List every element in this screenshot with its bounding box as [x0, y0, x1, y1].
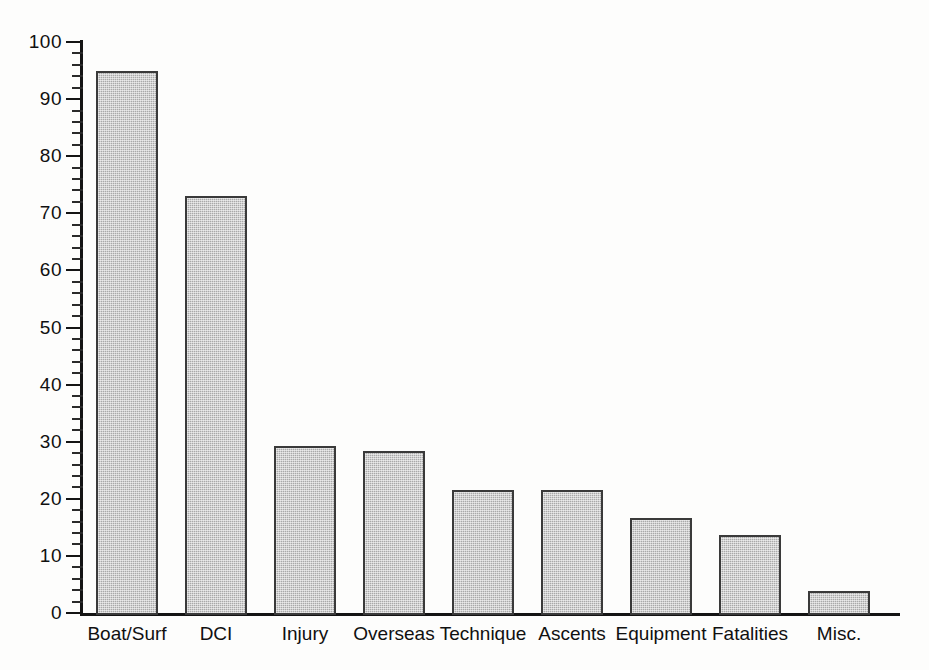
y-tick-label: 70 — [4, 203, 62, 222]
y-tick-label: 60 — [4, 260, 62, 279]
bar — [808, 591, 870, 615]
bar — [541, 490, 603, 615]
y-tick-minor — [72, 258, 83, 260]
y-tick-minor — [72, 566, 83, 568]
y-tick-minor — [72, 601, 83, 603]
y-tick-minor — [72, 349, 83, 351]
y-tick-minor — [72, 189, 83, 191]
bar — [274, 446, 336, 615]
y-axis-ticks: 0102030405060708090100 — [0, 0, 62, 670]
y-tick-minor — [72, 110, 83, 112]
y-tick-label: 100 — [4, 32, 62, 51]
y-tick-minor — [72, 418, 83, 420]
bar — [363, 451, 425, 615]
y-tick-minor — [72, 87, 83, 89]
y-tick-label: 20 — [4, 489, 62, 508]
y-tick-minor — [72, 475, 83, 477]
y-tick-minor — [72, 292, 83, 294]
y-tick-minor — [72, 201, 83, 203]
y-tick-major — [66, 612, 83, 614]
y-tick-major — [66, 212, 83, 214]
y-tick-minor — [72, 509, 83, 511]
y-tick-minor — [72, 75, 83, 77]
y-tick-minor — [72, 543, 83, 545]
plot-area: 0102030405060708090100 Boat/SurfDCIInjur… — [0, 0, 929, 670]
x-category-label: Misc. — [769, 624, 909, 645]
y-tick-minor — [72, 406, 83, 408]
y-tick-minor — [72, 132, 83, 134]
y-tick-minor — [72, 372, 83, 374]
y-tick-minor — [72, 304, 83, 306]
y-tick-major — [66, 327, 83, 329]
y-tick-minor — [72, 121, 83, 123]
y-tick-major — [66, 155, 83, 157]
y-tick-minor — [72, 452, 83, 454]
y-tick-minor — [72, 338, 83, 340]
y-tick-label: 40 — [4, 375, 62, 394]
y-tick-minor — [72, 235, 83, 237]
bar — [452, 490, 514, 615]
y-tick-label: 80 — [4, 146, 62, 165]
y-tick-major — [66, 384, 83, 386]
y-tick-label: 0 — [4, 603, 62, 622]
y-tick-minor — [72, 178, 83, 180]
y-tick-minor — [72, 315, 83, 317]
y-tick-minor — [72, 589, 83, 591]
bar — [96, 71, 158, 615]
y-tick-major — [66, 98, 83, 100]
y-tick-major — [66, 441, 83, 443]
y-tick-minor — [72, 429, 83, 431]
y-tick-minor — [72, 52, 83, 54]
bar — [630, 518, 692, 615]
y-tick-minor — [72, 521, 83, 523]
bar — [185, 196, 247, 615]
y-tick-minor — [72, 532, 83, 534]
y-tick-major — [66, 498, 83, 500]
y-tick-minor — [72, 247, 83, 249]
y-tick-label: 90 — [4, 89, 62, 108]
y-tick-minor — [72, 167, 83, 169]
y-tick-minor — [72, 361, 83, 363]
y-tick-major — [66, 41, 83, 43]
y-tick-label: 50 — [4, 318, 62, 337]
bar-chart: 0102030405060708090100 Boat/SurfDCIInjur… — [0, 0, 929, 670]
y-tick-minor — [72, 64, 83, 66]
y-tick-minor — [72, 224, 83, 226]
y-tick-major — [66, 555, 83, 557]
y-tick-label: 10 — [4, 546, 62, 565]
y-tick-minor — [72, 281, 83, 283]
y-tick-minor — [72, 395, 83, 397]
y-tick-minor — [72, 464, 83, 466]
y-tick-label: 30 — [4, 432, 62, 451]
y-tick-major — [66, 269, 83, 271]
bar — [719, 535, 781, 615]
y-tick-minor — [72, 486, 83, 488]
y-tick-minor — [72, 144, 83, 146]
y-tick-minor — [72, 578, 83, 580]
